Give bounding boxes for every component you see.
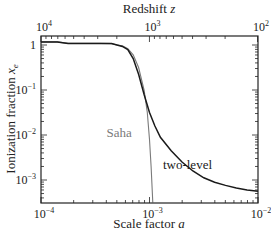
svg-text:10−1: 10−1 [15,82,36,97]
svg-text:10−4: 10−4 [34,206,55,221]
svg-text:102: 102 [253,19,269,34]
svg-text:1: 1 [30,38,36,52]
svg-text:two-level: two-level [163,157,212,172]
plot-frame [41,36,258,203]
y-axis-title: Ionization fraction xe [3,64,20,173]
top-axis-title: Redshift z [123,1,175,16]
tick-labels: 10−410−310−2104103102110−110−210−3 [15,19,271,221]
x-axis-title: Scale factor a [113,216,185,231]
series-lines [41,42,258,203]
svg-text:104: 104 [36,19,52,34]
axis-ticks [41,36,258,203]
series-two-level [41,42,258,191]
svg-text:103: 103 [145,19,161,34]
svg-text:Saha: Saha [106,125,132,140]
annotations: Sahatwo-level [106,125,212,172]
svg-text:10−2: 10−2 [251,206,271,221]
svg-text:10−3: 10−3 [15,172,36,187]
svg-text:10−2: 10−2 [15,127,36,142]
ionization-chart: 10−410−310−2104103102110−110−210−3 Sahat… [0,0,271,231]
